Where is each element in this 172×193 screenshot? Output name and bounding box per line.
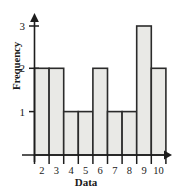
bar-10 bbox=[151, 68, 166, 155]
histogram-chart: Frequency 3 2 1 bbox=[0, 0, 172, 193]
bars-group bbox=[35, 26, 166, 155]
bar-9 bbox=[137, 26, 152, 155]
plot-area: 3 2 1 bbox=[0, 0, 172, 193]
y-axis-arrow-icon bbox=[30, 13, 39, 22]
x-axis-title: Data bbox=[0, 176, 172, 188]
y-tick-label-3: 3 bbox=[20, 20, 26, 32]
x-tick-label-8: 8 bbox=[127, 165, 132, 176]
x-tick-label-7: 7 bbox=[112, 165, 117, 176]
y-tick-labels: 3 2 1 bbox=[20, 20, 26, 118]
bar-2 bbox=[35, 68, 50, 155]
x-tick-label-4: 4 bbox=[68, 165, 74, 176]
y-tick-label-2: 2 bbox=[20, 62, 26, 74]
y-tick-label-1: 1 bbox=[20, 106, 26, 118]
x-tick-labels: 2 3 4 5 6 7 8 9 10 bbox=[39, 165, 164, 176]
bar-4 bbox=[64, 112, 79, 155]
x-tick-marks bbox=[35, 155, 166, 164]
x-tick-label-5: 5 bbox=[83, 165, 88, 176]
bar-3 bbox=[49, 68, 64, 155]
x-tick-label-2: 2 bbox=[39, 165, 44, 176]
bar-5 bbox=[78, 112, 93, 155]
bar-7 bbox=[108, 112, 123, 155]
bar-8 bbox=[122, 112, 137, 155]
x-tick-label-3: 3 bbox=[54, 165, 59, 176]
x-tick-label-9: 9 bbox=[141, 165, 146, 176]
bar-6 bbox=[93, 68, 108, 155]
x-tick-label-6: 6 bbox=[98, 165, 103, 176]
x-tick-label-10: 10 bbox=[153, 165, 164, 176]
